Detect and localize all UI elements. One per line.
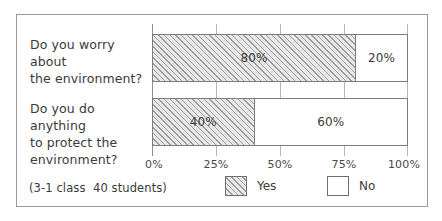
- legend-label-no: No: [359, 179, 375, 193]
- legend-label-yes: Yes: [257, 179, 276, 193]
- bar-row-1: 40% 60%: [152, 98, 408, 146]
- bar-row-0: 80% 20%: [152, 34, 408, 82]
- bar-1-segment-yes: 40%: [153, 99, 255, 145]
- category-label-1-line-0: Do you do anything: [30, 100, 150, 134]
- legend-item-yes: Yes: [225, 176, 276, 196]
- category-label-0: Do you worry about the environment?: [30, 36, 150, 87]
- bar-0-segment-yes-label: 80%: [238, 51, 269, 65]
- category-label-1: Do you do anything to protect the enviro…: [30, 100, 150, 168]
- bar-1-segment-no-label: 60%: [315, 115, 346, 129]
- x-tick-label-0: 0%: [145, 158, 163, 171]
- category-label-0-line-0: Do you worry about: [30, 36, 150, 70]
- legend-swatch-yes-icon: [225, 176, 247, 196]
- category-label-0-line-1: the environment?: [30, 70, 150, 87]
- chart-footer: (3-1 class 40 students) Yes No: [17, 172, 427, 206]
- bar-0-segment-yes: 80%: [153, 35, 356, 81]
- x-tick-label-25: 25%: [203, 158, 228, 171]
- category-label-1-line-1: to protect the: [30, 134, 150, 151]
- bar-1-segment-no: 60%: [255, 99, 407, 145]
- x-tick-label-75: 75%: [331, 158, 356, 171]
- plot-area: 80% 20% 40% 60%: [152, 24, 408, 156]
- x-tick-label-100: 100%: [388, 158, 420, 171]
- legend-item-no: No: [327, 176, 375, 196]
- legend-swatch-no-icon: [327, 176, 349, 196]
- bar-0-segment-no: 20%: [356, 35, 407, 81]
- category-label-1-line-2: environment?: [30, 151, 150, 168]
- bar-1-segment-yes-label: 40%: [188, 115, 219, 129]
- sample-size-note: (3-1 class 40 students): [29, 181, 167, 195]
- x-tick-label-50: 50%: [267, 158, 292, 171]
- bar-0-segment-no-label: 20%: [366, 51, 397, 65]
- survey-bar-chart-figure: Do you worry about the environment? Do y…: [0, 0, 442, 221]
